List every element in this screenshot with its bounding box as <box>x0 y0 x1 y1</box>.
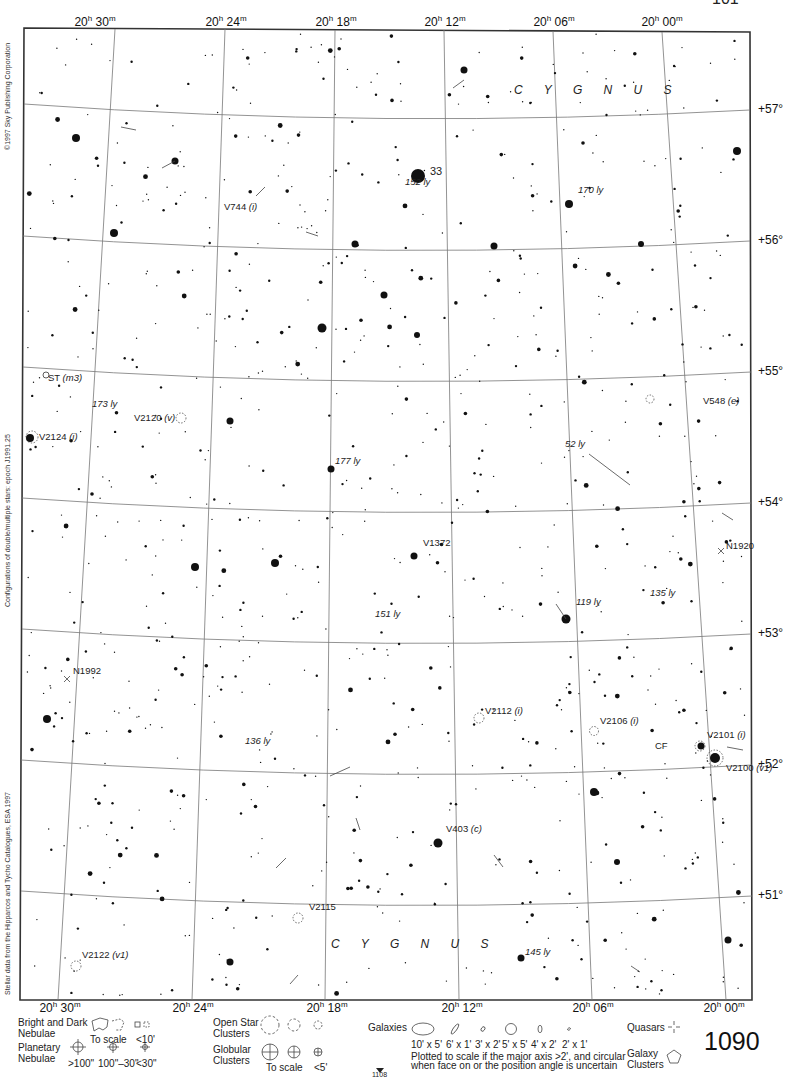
field-star <box>663 910 664 911</box>
field-star <box>473 472 475 474</box>
field-star <box>386 740 391 745</box>
field-star <box>274 758 276 760</box>
field-star <box>64 524 69 529</box>
field-star <box>390 99 394 103</box>
field-star <box>342 534 343 535</box>
field-star <box>349 658 350 659</box>
field-star <box>741 344 743 346</box>
field-star <box>316 347 317 348</box>
constellation-label-bottom: C Y G N U S <box>331 937 498 951</box>
field-star <box>317 566 319 568</box>
field-star <box>362 653 363 654</box>
field-star <box>205 459 206 460</box>
field-star <box>73 307 78 312</box>
field-star <box>233 927 234 928</box>
field-star <box>605 114 607 116</box>
field-star <box>709 277 711 279</box>
field-star <box>448 741 449 742</box>
field-star <box>692 859 693 860</box>
field-star <box>441 502 442 503</box>
field-star <box>483 970 484 971</box>
field-star <box>125 122 127 124</box>
bright-star <box>434 839 443 848</box>
legend-planetary-size-2: 100"–30" <box>98 1058 138 1069</box>
dec-label: +51° <box>758 888 783 902</box>
field-star <box>170 789 174 793</box>
field-star <box>397 492 398 493</box>
field-star <box>700 671 702 673</box>
field-star <box>497 279 501 283</box>
field-star <box>27 191 32 196</box>
field-star <box>478 457 480 459</box>
field-star <box>208 450 209 451</box>
field-star <box>661 817 662 818</box>
field-star <box>213 498 215 500</box>
galaxy-icon-5x5 <box>506 1024 517 1035</box>
field-star <box>598 296 599 297</box>
field-star <box>145 545 147 547</box>
field-star <box>444 883 446 885</box>
adjacent-page-reference[interactable]: 1108 <box>372 1071 387 1078</box>
field-star <box>88 563 89 564</box>
field-star <box>664 855 665 856</box>
field-star <box>587 71 588 72</box>
field-star <box>554 524 555 525</box>
field-star <box>232 86 234 88</box>
field-star <box>655 704 656 705</box>
field-star <box>391 488 392 489</box>
field-star <box>258 372 259 373</box>
field-star <box>627 634 628 635</box>
field-star <box>316 735 317 736</box>
field-star <box>636 986 638 988</box>
field-star <box>446 980 447 981</box>
field-star <box>44 667 46 669</box>
field-star <box>472 129 473 130</box>
field-star <box>265 135 266 136</box>
field-star <box>221 676 223 678</box>
dec-label: +55° <box>758 364 783 378</box>
field-star <box>103 882 105 884</box>
bright-star <box>43 715 51 723</box>
field-star <box>536 872 538 874</box>
field-star <box>365 509 366 510</box>
field-star <box>535 741 539 745</box>
field-star <box>304 774 306 776</box>
field-star <box>487 344 489 346</box>
field-star <box>524 273 525 274</box>
field-star <box>262 548 263 549</box>
field-star <box>556 350 558 352</box>
field-star <box>307 299 308 300</box>
field-star <box>356 648 357 649</box>
field-star <box>578 376 580 378</box>
field-star <box>458 507 459 508</box>
field-star <box>156 639 158 641</box>
field-star <box>456 135 458 137</box>
field-star <box>405 247 407 249</box>
field-star <box>109 480 110 481</box>
field-star <box>182 794 186 798</box>
field-star <box>250 103 251 104</box>
field-star <box>520 257 522 259</box>
field-star <box>678 711 680 713</box>
legend-globular-title: GlobularClusters <box>213 1044 251 1066</box>
field-star <box>104 784 106 786</box>
field-star <box>559 699 561 701</box>
field-star <box>363 335 364 336</box>
field-star <box>112 902 114 904</box>
object-label-V2115: V2115 <box>309 901 336 912</box>
field-star <box>702 147 703 148</box>
field-star <box>553 64 554 65</box>
field-star <box>434 903 435 904</box>
field-star <box>249 63 250 64</box>
constellation-label-top: C Y G N U S <box>514 83 681 97</box>
field-star <box>454 301 458 305</box>
field-star <box>33 382 34 383</box>
field-star <box>368 968 369 969</box>
field-star <box>351 121 353 123</box>
field-star <box>566 231 567 232</box>
field-star <box>567 503 568 504</box>
field-star <box>364 270 365 271</box>
field-star <box>87 825 88 826</box>
field-star <box>449 616 450 617</box>
object-label-V2122: V2122 (v1) <box>82 949 129 960</box>
